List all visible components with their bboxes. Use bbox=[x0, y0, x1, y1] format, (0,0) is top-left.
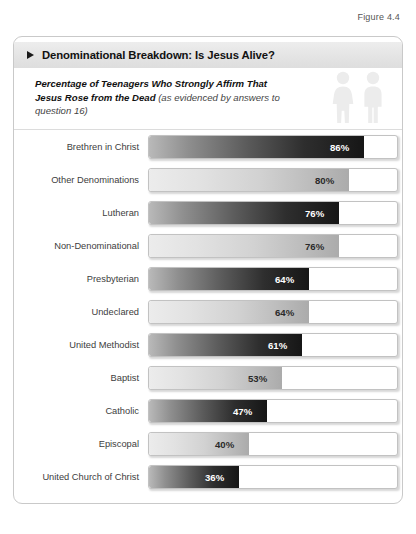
bar-value-label: 64% bbox=[275, 268, 294, 291]
bar-category-label: Lutheran bbox=[14, 201, 139, 225]
bar-value-label: 86% bbox=[330, 136, 349, 159]
bar-track: 64% bbox=[148, 267, 398, 291]
figure-caption: Figure 4.4 bbox=[357, 12, 400, 22]
bar-category-label: Brethren in Christ bbox=[14, 135, 139, 159]
bar-track: 64% bbox=[148, 300, 398, 324]
bar-row: Episcopal40% bbox=[14, 432, 402, 456]
female-figure-icon bbox=[333, 72, 354, 123]
bar-row: Lutheran76% bbox=[14, 201, 402, 225]
bar-category-label: Catholic bbox=[14, 399, 139, 423]
bar-chart-plot-area: Brethren in Christ86%Other Denominations… bbox=[14, 135, 402, 498]
bar-track: 76% bbox=[148, 234, 398, 258]
bar-track: 61% bbox=[148, 333, 398, 357]
bar-category-label: Other Denominations bbox=[14, 168, 139, 192]
triangle-right-icon bbox=[27, 51, 34, 59]
bar-track: 53% bbox=[148, 366, 398, 390]
bar-category-label: Presbyterian bbox=[14, 267, 139, 291]
chart-card: Denominational Breakdown: Is Jesus Alive… bbox=[13, 36, 403, 504]
bar-row: Presbyterian64% bbox=[14, 267, 402, 291]
bar-value-label: 40% bbox=[215, 433, 234, 456]
bar-category-label: United Methodist bbox=[14, 333, 139, 357]
bar-value-label: 47% bbox=[233, 400, 252, 423]
card-header: Denominational Breakdown: Is Jesus Alive… bbox=[14, 42, 402, 68]
bar-row: Undeclared64% bbox=[14, 300, 402, 324]
bar-track: 36% bbox=[148, 465, 398, 489]
bar-track: 86% bbox=[148, 135, 398, 159]
bar-row: Baptist53% bbox=[14, 366, 402, 390]
bar-fill bbox=[149, 466, 239, 488]
people-figures-decoration bbox=[326, 69, 394, 125]
bar-value-label: 64% bbox=[275, 301, 294, 324]
intro-divider bbox=[14, 129, 402, 130]
bar-value-label: 53% bbox=[248, 367, 267, 390]
bar-category-label: Undeclared bbox=[14, 300, 139, 324]
bar-value-label: 36% bbox=[205, 466, 224, 489]
chart-subtitle: Percentage of Teenagers Who Strongly Aff… bbox=[35, 77, 290, 118]
bar-value-label: 76% bbox=[305, 202, 324, 225]
bar-category-label: United Church of Christ bbox=[14, 465, 139, 489]
bar-value-label: 61% bbox=[268, 334, 287, 357]
bar-value-label: 76% bbox=[305, 235, 324, 258]
bar-row: Non-Denominational76% bbox=[14, 234, 402, 258]
bar-row: United Church of Christ36% bbox=[14, 465, 402, 489]
bar-row: United Methodist61% bbox=[14, 333, 402, 357]
bar-track: 40% bbox=[148, 432, 398, 456]
bar-track: 76% bbox=[148, 201, 398, 225]
bar-value-label: 80% bbox=[315, 169, 334, 192]
bar-row: Catholic47% bbox=[14, 399, 402, 423]
bar-category-label: Baptist bbox=[14, 366, 139, 390]
bar-track: 47% bbox=[148, 399, 398, 423]
bar-category-label: Non-Denominational bbox=[14, 234, 139, 258]
bar-track: 80% bbox=[148, 168, 398, 192]
bar-category-label: Episcopal bbox=[14, 432, 139, 456]
bar-row: Other Denominations80% bbox=[14, 168, 402, 192]
male-figure-icon bbox=[364, 72, 381, 123]
chart-title: Denominational Breakdown: Is Jesus Alive… bbox=[42, 49, 275, 61]
bar-row: Brethren in Christ86% bbox=[14, 135, 402, 159]
